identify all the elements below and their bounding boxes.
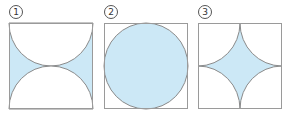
figure-1-diagram [9, 23, 93, 109]
figure-2-label: 2 [104, 5, 118, 19]
figure-3-diagram [198, 23, 282, 109]
figure-1: 1 [9, 0, 99, 117]
figure-2: 2 [104, 0, 194, 117]
figure-3: 3 [198, 0, 288, 117]
figure-3-label: 3 [198, 5, 212, 19]
figure-2-diagram [104, 23, 188, 109]
figure-1-label: 1 [9, 5, 23, 19]
